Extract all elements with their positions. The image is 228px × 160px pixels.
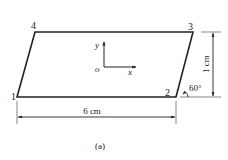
height-label: 1 cm [201,55,211,73]
x-axis-label: x [127,67,132,77]
vertex-1-label: 1 [11,91,16,102]
origin-label: o [95,64,100,74]
figure-caption: (a) [95,141,105,151]
vertex-3-label: 3 [188,21,193,32]
vertex-4-label: 4 [31,20,36,31]
angle-arc [183,93,188,97]
parallelogram-diagram: 1 2 3 4 y x o 1 cm 6 cm 60° (a) [0,0,228,160]
angle-label: 60° [189,83,202,93]
width-label: 6 cm [83,106,101,116]
y-axis-label: y [94,40,99,50]
vertex-2-label: 2 [165,87,170,98]
